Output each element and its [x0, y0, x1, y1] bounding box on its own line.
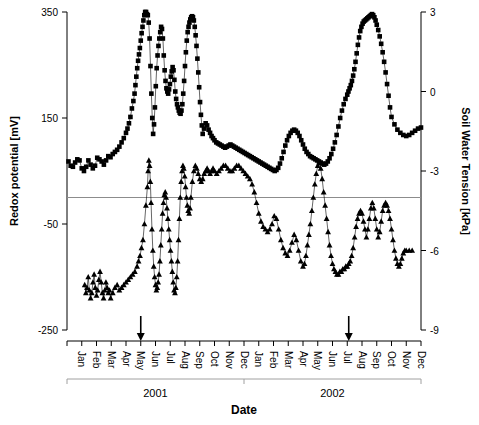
data-point [249, 181, 255, 186]
data-point [296, 247, 302, 252]
data-point [357, 35, 362, 40]
chart-svg: 350150-50-250Redox potential [mV]30-3-6-… [0, 0, 479, 425]
data-point [389, 115, 394, 120]
data-point [353, 60, 358, 65]
data-point [305, 242, 311, 247]
data-point [119, 140, 124, 145]
data-point [169, 258, 175, 263]
data-point [134, 74, 139, 79]
data-point [152, 122, 157, 127]
data-point [167, 87, 172, 92]
data-point [382, 60, 387, 65]
data-point [185, 30, 190, 35]
data-point [136, 58, 141, 63]
event-arrow-annotation [137, 316, 145, 341]
data-point [179, 108, 184, 113]
data-point [279, 156, 284, 161]
x-tick-label: Sep [371, 351, 382, 369]
data-point [146, 157, 152, 162]
x-tick-label: Mar [106, 351, 117, 369]
data-point [353, 224, 359, 229]
data-point [186, 25, 191, 30]
data-point [293, 237, 299, 242]
data-point [319, 176, 325, 181]
data-point [383, 70, 388, 75]
data-point [366, 216, 372, 221]
data-point [385, 82, 390, 87]
data-point [361, 218, 367, 223]
x-tick-label: May [135, 351, 146, 370]
data-point [196, 70, 201, 75]
data-point [180, 102, 185, 107]
data-point [356, 43, 361, 48]
y-tick-label-right: -6 [430, 246, 439, 257]
data-point [340, 108, 345, 113]
event-arrow-annotation [345, 316, 353, 341]
x-tick-label: Jun [327, 351, 338, 367]
data-point [331, 146, 336, 151]
data-point [313, 171, 319, 176]
data-point [276, 226, 282, 231]
data-point [147, 179, 153, 184]
x-tick-label: Jul [165, 351, 176, 364]
x-tick-label: Jan [76, 351, 87, 367]
data-point [199, 113, 204, 118]
data-point [175, 258, 181, 263]
x-tick-label: Sep [194, 351, 205, 369]
data-point [280, 245, 286, 250]
data-point [146, 13, 151, 18]
data-point [354, 51, 359, 56]
data-point [338, 116, 343, 121]
data-point [269, 221, 275, 226]
data-point [322, 202, 328, 207]
data-point [301, 142, 306, 147]
data-point [140, 25, 145, 30]
data-point [267, 226, 273, 231]
data-point [157, 258, 163, 263]
data-point [160, 27, 165, 32]
x-tick-label: Nov [401, 351, 412, 369]
data-point [375, 234, 381, 239]
data-point [386, 93, 391, 98]
data-point [114, 282, 120, 287]
data-point [387, 216, 393, 221]
data-point [389, 226, 395, 231]
data-point [178, 179, 184, 184]
data-point [161, 36, 166, 41]
x-tick-label: May [312, 351, 323, 370]
data-point [380, 50, 385, 55]
data-point [102, 162, 107, 167]
data-point [145, 168, 151, 173]
data-point [149, 226, 155, 231]
data-point [104, 158, 109, 163]
data-point [287, 247, 293, 252]
data-point [276, 166, 281, 171]
x-tick-label: Apr [121, 351, 132, 367]
data-point [309, 208, 315, 213]
data-point [328, 253, 334, 258]
data-point [388, 105, 393, 110]
y-tick-label-right: -3 [430, 166, 439, 177]
data-point [148, 64, 153, 69]
data-point [392, 247, 398, 252]
data-point [141, 18, 146, 23]
data-point [198, 100, 203, 105]
data-point [139, 31, 144, 36]
year-label: 2001 [143, 387, 167, 399]
data-point [97, 269, 103, 274]
data-point [149, 91, 154, 96]
y-tick-label-left: -250 [38, 325, 58, 336]
data-point [131, 99, 136, 104]
data-point [358, 29, 363, 34]
data-point [376, 28, 381, 33]
x-tick-label: Feb [268, 351, 279, 369]
data-point [121, 136, 126, 141]
x-tick-label: Oct [209, 351, 220, 367]
data-point [146, 20, 151, 25]
data-point [329, 152, 334, 157]
data-point [380, 208, 386, 213]
data-point [278, 161, 283, 166]
data-point [159, 226, 165, 231]
data-point [327, 156, 332, 161]
data-point [327, 242, 333, 247]
